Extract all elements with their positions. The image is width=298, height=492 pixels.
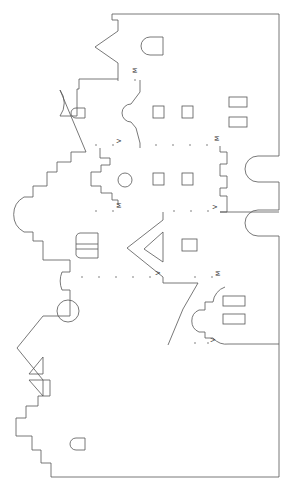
building-4-dome-cut (192, 287, 279, 344)
window-rect-2 (229, 117, 247, 127)
fold-label-mountain: M (131, 68, 138, 73)
window-rect-1 (229, 97, 247, 107)
window-square-1 (153, 106, 164, 118)
window-square-3 (153, 173, 164, 185)
window-square-4 (182, 173, 193, 185)
triangle-window (144, 232, 163, 262)
window-square-5 (182, 239, 197, 251)
round-window-2 (57, 300, 79, 322)
fold-label-valley: V (115, 138, 122, 143)
arched-window-left (71, 108, 85, 118)
triangle-window-pair-lower (29, 380, 43, 396)
round-window-1 (118, 173, 132, 187)
building-2-left-step-cut (91, 148, 118, 205)
window-rect-4 (223, 314, 245, 324)
outer-cut-outline (14, 14, 279, 477)
building-1-upper-cut (122, 80, 140, 148)
fold-dots (81, 79, 212, 343)
arched-door-bottom (70, 438, 85, 450)
arched-door-top (141, 37, 163, 55)
window-rect-3 (223, 296, 245, 306)
arched-door-triple (76, 233, 98, 258)
fold-labels: M V M M V V M V (115, 68, 221, 342)
facade-template-canvas: M V M M V V M V (0, 0, 298, 492)
fold-label-valley: V (211, 204, 218, 209)
fold-label-mountain: M (214, 271, 221, 276)
window-square-2 (182, 106, 193, 118)
fold-label-mountain: M (115, 203, 122, 208)
fold-label-mountain: M (213, 136, 220, 141)
